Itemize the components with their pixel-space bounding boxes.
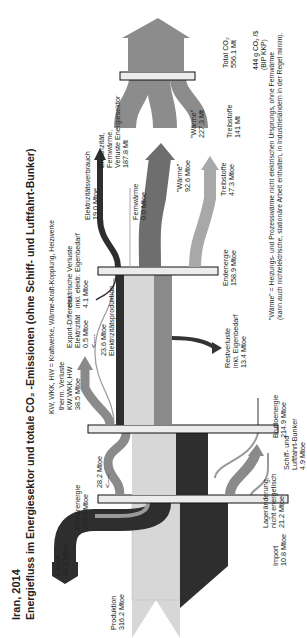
waerme-flow [150, 158, 160, 267]
waerme-label: "Wärme" 92.6 Mtoe [176, 160, 192, 192]
bar-co2 [120, 72, 195, 80]
bar-primaerenergie [98, 495, 288, 503]
export-label: Export 86.2 Mtoe [54, 544, 70, 576]
bunker-label: Schiff- und Luftfahrt-Bunker 4.9 Mtoe [283, 418, 307, 470]
trunk-light-2 [124, 275, 154, 425]
sankey-diagram: Iran, 2014 Energiefluss im Energiesektor… [0, 0, 307, 638]
elektrizitaetsproduktion-label: 23.6 Mtoe Elektrizitätsproduktion [100, 286, 116, 356]
produktion-label: Produktion 316.2 Mtoe [110, 594, 126, 630]
restverluste-label: Restverluste inkl. Eigenbedarf 13.4 Mtoe [224, 314, 248, 368]
therm-verluste-label: therm. Verluste KW,WKK,HW 38.5 Mtoe [58, 362, 82, 410]
treibstoffe-flow [195, 168, 210, 267]
co2-sektor-label: Elektrizität, Fernwärme, Verluste Energi… [98, 96, 130, 168]
waerme-arrowhead [145, 143, 175, 160]
co2-intensity-label: 444 g CO₂ /$ (BIP KKP) [252, 31, 267, 70]
bar-endenergie [98, 267, 218, 275]
trunk-dark-2 [116, 275, 124, 425]
title-line1: Iran, 2014 [10, 569, 22, 620]
recycle-label: 28.2 Mtoe <---- [96, 456, 112, 488]
footnote: "Wärme" = Heizungs- und Prozesswärme nic… [268, 32, 284, 320]
bar-bruttoenergie [88, 425, 278, 433]
restverluste-arrowhead [212, 342, 222, 354]
trunk-mid-2 [154, 275, 172, 425]
co2-waerme-flow [158, 78, 165, 128]
endenergie-label: Endenergie 158.9 Mtoe [222, 249, 238, 286]
co2-treibstoffe-label: Treibstoffe 141 Mt [226, 104, 242, 138]
sankey-flows [0, 0, 307, 638]
elektr-verluste-label: elektrische Verluste inkl. elektr. Eigen… [66, 233, 90, 308]
treibstoffe-arrowhead [201, 156, 219, 170]
trunk-dark-1 [176, 433, 208, 495]
elektrizitaetsverbrauch-flow [100, 158, 118, 267]
treibstoffe-label: Treibstoffe 47.3 Mtoe [220, 162, 236, 196]
co2-total-arrow [122, 18, 190, 72]
production-flow-dark [180, 503, 228, 608]
trunk-light-1 [132, 433, 176, 495]
restverluste-flow [172, 338, 215, 348]
co2-waerme-label: "Wärme" 227.3 Mt [190, 110, 206, 138]
import-label: Import 10.8 Mtoe [272, 534, 288, 566]
fernwaerme-label: Fernwärme 0.0 Mtoe [132, 184, 148, 220]
therm-verluste-flow [85, 368, 110, 425]
title-line2: Energiefluss im Energiesektor und totale… [24, 149, 36, 620]
co2-total-label: Total CO₂ 556.1 Mt [222, 37, 238, 68]
primaerenergie-label: Primärenergie 240.9 Mtoe [74, 485, 90, 530]
lageraenderung-arrowhead [248, 444, 264, 456]
lageraenderung-label: Lageränderung, nicht energetisch 21.2 Mt… [262, 474, 286, 528]
legend-abbrev: KW, WKK, HW = Kraftwerke, Wärme-Kraft-Ko… [48, 220, 56, 414]
